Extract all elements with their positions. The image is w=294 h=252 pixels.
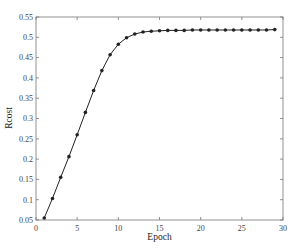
data-point <box>199 28 203 32</box>
x-tick-label: 10 <box>114 224 122 233</box>
x-tick-label: 20 <box>197 224 205 233</box>
y-tick-label: 0.2 <box>23 155 33 164</box>
y-tick-label: 0.3 <box>23 114 33 123</box>
data-point <box>273 28 277 32</box>
y-tick-label: 0.35 <box>19 94 33 103</box>
plot-area <box>36 17 283 220</box>
x-tick-label: 25 <box>238 224 246 233</box>
data-point <box>232 28 236 32</box>
y-tick-label: 0.55 <box>19 13 33 22</box>
x-tick-label: 30 <box>279 224 287 233</box>
y-tick-label: 0.4 <box>23 74 33 83</box>
data-point <box>133 32 137 36</box>
data-point <box>224 28 228 32</box>
data-point <box>191 28 195 32</box>
line-chart: 051015202530 0.050.10.150.20.250.30.350.… <box>0 0 294 252</box>
y-tick-label: 0.45 <box>19 53 33 62</box>
x-tick-label: 0 <box>34 224 38 233</box>
data-point <box>149 29 153 33</box>
x-axis-label: Epoch <box>147 232 172 242</box>
y-axis-label: Rcost <box>4 107 14 129</box>
data-point <box>100 69 104 73</box>
data-point <box>51 197 55 201</box>
data-point <box>75 133 79 137</box>
data-point <box>248 28 252 32</box>
y-tick-label: 0.05 <box>19 216 33 225</box>
data-point <box>84 111 88 115</box>
data-point <box>207 28 211 32</box>
data-point <box>215 28 219 32</box>
data-point <box>92 89 96 93</box>
x-tick-label: 5 <box>75 224 79 233</box>
data-point <box>240 28 244 32</box>
data-point <box>125 36 129 40</box>
data-point <box>182 29 186 33</box>
y-tick-label: 0.1 <box>23 196 33 205</box>
data-point <box>257 28 261 32</box>
data-point <box>141 30 145 34</box>
data-point <box>158 29 162 33</box>
data-point <box>59 176 63 180</box>
data-point <box>42 216 46 220</box>
data-point <box>67 155 71 159</box>
y-tick-label: 0.5 <box>23 33 33 42</box>
data-point <box>117 42 121 46</box>
y-tick-label: 0.15 <box>19 175 33 184</box>
data-point <box>166 29 170 33</box>
y-tick-label: 0.25 <box>19 135 33 144</box>
data-point <box>265 28 269 32</box>
data-point <box>174 29 178 33</box>
data-point <box>108 53 112 57</box>
